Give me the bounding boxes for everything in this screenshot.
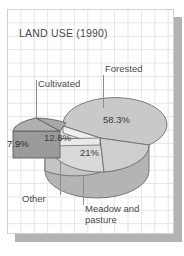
slice-label-cultivated: Cultivated bbox=[38, 78, 80, 89]
leader-line-meadow bbox=[83, 175, 84, 205]
slice-label-forested: Forested bbox=[105, 63, 143, 74]
slice-label-meadow-line2: pasture bbox=[85, 214, 139, 225]
chart-screenshot: LAND USE (1990) bbox=[0, 0, 184, 256]
slice-value-meadow: 21% bbox=[80, 147, 99, 158]
leader-line-cultivated bbox=[36, 80, 37, 118]
slice-value-other: 7.9% bbox=[7, 138, 29, 149]
slice-value-cultivated: 12.8% bbox=[44, 132, 71, 143]
leader-line-other bbox=[60, 162, 61, 195]
slice-label-meadow-line1: Meadow and bbox=[85, 203, 139, 214]
leader-line-forested bbox=[103, 75, 104, 108]
slice-label-other: Other bbox=[22, 193, 46, 204]
slice-label-meadow: Meadow and pasture bbox=[85, 203, 139, 225]
slice-value-forested: 58.3% bbox=[103, 114, 130, 125]
